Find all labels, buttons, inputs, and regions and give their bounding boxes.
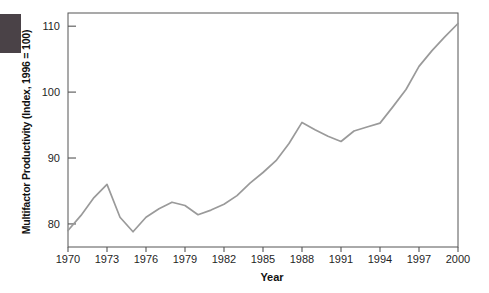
productivity-series-line <box>68 24 458 232</box>
y-axis-ticks: 8090100110 <box>42 20 76 230</box>
y-tick-label: 80 <box>48 218 60 230</box>
y-axis-title: Multifactor Productivity (Index, 1996 = … <box>20 30 32 234</box>
x-tick-label: 1973 <box>95 253 119 265</box>
x-tick-label: 1991 <box>329 253 353 265</box>
x-tick-label: 1985 <box>251 253 275 265</box>
x-axis-ticks: 1970197319761979198219851988199119941997… <box>56 247 470 265</box>
x-tick-label: 1979 <box>173 253 197 265</box>
y-tick-label: 110 <box>42 20 60 32</box>
x-tick-label: 1970 <box>56 253 80 265</box>
x-tick-label: 2000 <box>446 253 470 265</box>
x-tick-label: 1976 <box>134 253 158 265</box>
x-tick-label: 1982 <box>212 253 236 265</box>
x-tick-label: 1988 <box>290 253 314 265</box>
y-tick-label: 100 <box>42 86 60 98</box>
productivity-line-chart: 8090100110 19701973197619791982198519881… <box>0 0 489 293</box>
figure-page: 8090100110 19701973197619791982198519881… <box>0 0 489 293</box>
x-tick-label: 1997 <box>407 253 431 265</box>
x-tick-label: 1994 <box>368 253 392 265</box>
x-axis-title: Year <box>260 271 284 283</box>
y-tick-label: 90 <box>48 152 60 164</box>
plot-border <box>68 13 458 247</box>
